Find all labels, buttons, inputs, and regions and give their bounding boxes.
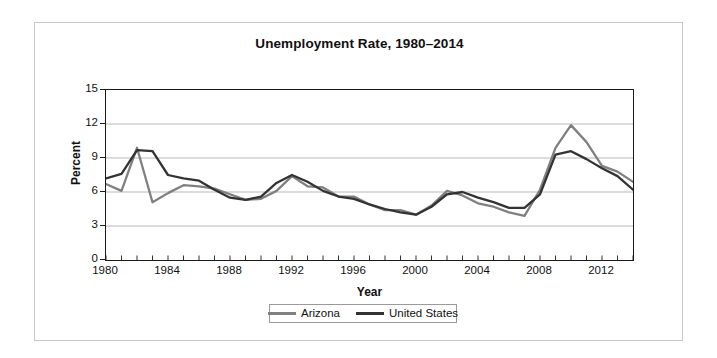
legend-swatch-arizona [268,312,296,315]
x-tick-label: 2008 [516,265,562,277]
y-tick-mark [100,157,105,158]
y-tick-label: 9 [62,151,98,163]
legend-swatch-united-states [356,312,384,315]
y-tick-mark [100,259,105,260]
x-tick-label: 1992 [268,265,314,277]
x-tick-label: 1984 [144,265,190,277]
y-tick-label: 15 [62,83,98,95]
plot-area [105,89,634,261]
y-tick-mark [100,123,105,124]
x-tick-label: 2000 [392,265,438,277]
legend-label: Arizona [301,308,340,320]
y-tick-label: 12 [62,117,98,129]
x-tick-label: 1988 [206,265,252,277]
x-tick-label: 1980 [82,265,128,277]
chart-plot-svg [106,90,633,260]
figure-frame: Unemployment Rate, 1980–2014 Percent Yea… [34,22,683,341]
chart-legend: ArizonaUnited States [269,304,457,323]
y-tick-label: 6 [62,185,98,197]
x-tick-label: 2012 [578,265,624,277]
x-tick-label: 2004 [454,265,500,277]
legend-label: United States [389,308,458,320]
x-axis-title: Year [105,285,634,299]
y-tick-label: 3 [62,219,98,231]
y-tick-label: 0 [62,253,98,265]
x-tick-label: 1996 [330,265,376,277]
legend-entry[interactable]: Arizona [268,308,340,320]
y-tick-mark [100,225,105,226]
y-tick-mark [100,191,105,192]
chart-title: Unemployment Rate, 1980–2014 [35,36,684,51]
legend-entry[interactable]: United States [356,308,458,320]
y-tick-mark [100,89,105,90]
